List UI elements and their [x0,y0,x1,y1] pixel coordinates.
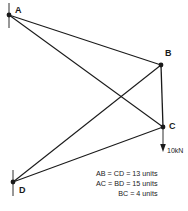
truss-diagram: A B C D 10kN AB = CD = 13 units AC = BD … [0,0,188,211]
legend-line-3: BC = 4 units [96,189,158,199]
node-label-c: C [169,122,176,131]
node-label-b: B [165,49,172,58]
node-label-a: A [15,6,22,15]
truss-joints [7,13,166,185]
legend-line-1: AB = CD = 13 units [96,169,158,179]
load-arrow-head [160,144,166,152]
member-AC [9,15,163,127]
dimensions-legend: AB = CD = 13 units AC = BD = 15 units BC… [96,169,158,200]
joint-A [7,13,12,18]
node-label-d: D [19,186,26,195]
joint-D [11,180,16,185]
member-BD [13,65,161,182]
member-AB [9,15,161,65]
load-label: 10kN [167,147,183,154]
legend-line-2: AC = BD = 15 units [96,179,158,189]
joint-B [159,63,164,68]
member-BC [161,65,163,127]
joint-C [161,125,166,130]
truss-supports [9,3,13,196]
truss-drawing-canvas [0,0,188,211]
truss-members [9,15,163,182]
load-arrow-C [160,127,166,152]
